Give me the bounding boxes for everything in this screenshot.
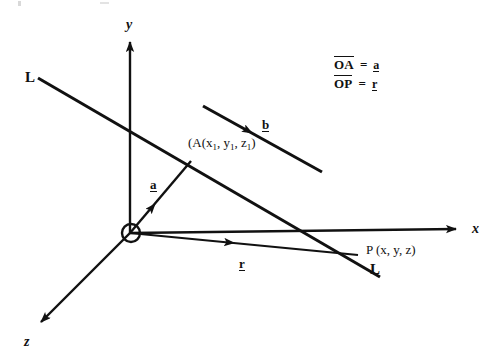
y-axis-label: y xyxy=(126,18,132,32)
legend: OA = a OP = r xyxy=(334,56,379,94)
legend-equals-2: = xyxy=(358,76,365,92)
point-A-text: (A(x xyxy=(188,135,213,150)
vector-line-diagram: y x z L L (A(x1, y1, z1) P (x, y, z) a b… xyxy=(0,0,502,364)
legend-row-op: OP = r xyxy=(334,75,379,92)
point-A-mid-1: , y xyxy=(217,135,230,150)
z-axis-line xyxy=(41,233,130,322)
point-A-mid-2: , z xyxy=(235,135,247,150)
legend-segment-op: OP xyxy=(334,75,352,92)
z-axis-label: z xyxy=(24,335,29,349)
line-L-label-top: L xyxy=(25,70,35,85)
x-axis-label: x xyxy=(472,222,479,236)
point-A-label: (A(x1, y1, z1) xyxy=(188,136,256,152)
x-axis-line xyxy=(130,229,456,233)
legend-row-oa: OA = a xyxy=(334,56,379,73)
vector-a-group xyxy=(130,161,191,233)
vector-r-label: r xyxy=(239,257,245,271)
legend-vector-r: r xyxy=(372,78,377,91)
diagram-canvas xyxy=(0,0,502,364)
point-P-label: P (x, y, z) xyxy=(366,243,416,256)
legend-equals-1: = xyxy=(360,57,367,73)
point-A-close-paren: ) xyxy=(251,135,255,150)
vector-a-label: a xyxy=(150,178,157,192)
vector-b-label: b xyxy=(262,118,269,132)
axes-group xyxy=(41,42,456,322)
legend-vector-a: a xyxy=(373,59,379,72)
vector-a-line xyxy=(130,161,191,233)
line-L-label-bottom: L xyxy=(370,262,380,277)
legend-segment-oa: OA xyxy=(334,56,354,73)
